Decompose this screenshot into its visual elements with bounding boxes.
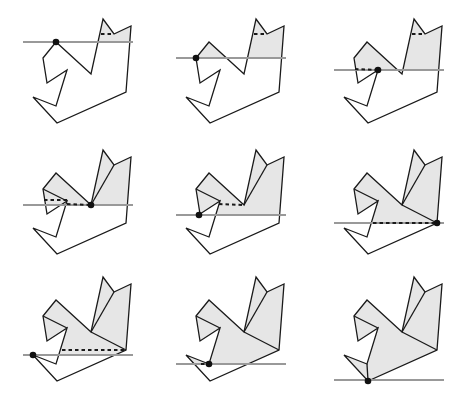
event-point — [365, 378, 372, 385]
swept-region — [344, 277, 442, 381]
panel-step-2 — [176, 19, 286, 123]
swept-region — [344, 19, 442, 123]
event-point — [206, 361, 213, 368]
swept-region — [33, 277, 131, 381]
swept-region — [344, 150, 442, 254]
panel-step-7 — [23, 277, 133, 381]
panel-step-4 — [23, 150, 133, 254]
swept-region — [33, 150, 131, 254]
event-point — [193, 55, 200, 62]
swept-region — [186, 277, 284, 381]
panel-step-5 — [176, 150, 286, 254]
event-point — [434, 220, 441, 227]
event-point — [53, 39, 60, 46]
panel-step-8 — [176, 277, 286, 381]
sweep-diagram — [0, 0, 467, 404]
event-point — [88, 202, 95, 209]
panel-step-3 — [334, 19, 444, 123]
event-point — [375, 67, 382, 74]
event-point — [196, 212, 203, 219]
swept-region — [186, 150, 284, 254]
panel-step-6 — [334, 150, 444, 254]
event-point — [30, 352, 37, 359]
swept-region — [33, 19, 131, 123]
swept-region — [186, 19, 284, 123]
panel-step-9 — [334, 277, 444, 384]
panel-step-1 — [23, 19, 133, 123]
